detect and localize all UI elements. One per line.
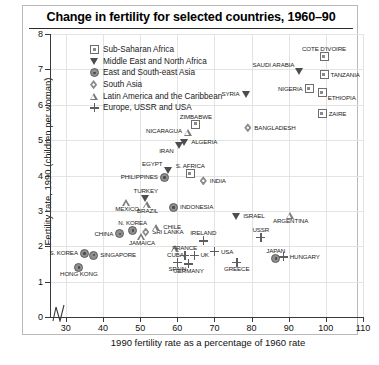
x-tick [326, 317, 327, 322]
marker-plus-icon [190, 251, 199, 260]
point-label: INDIA [210, 178, 226, 185]
chart-legend: Sub-Saharan AfricaMiddle East and North … [89, 44, 222, 114]
point-label: S. KOREA [49, 250, 77, 257]
x-tick [177, 317, 178, 322]
legend-item[interactable]: South Asia [89, 79, 222, 91]
marker-plus-icon [199, 236, 208, 245]
legend-label: East and South-east Asia [103, 68, 195, 77]
legend-item[interactable]: Sub-Saharan Africa [89, 44, 222, 56]
x-tick-label: 50 [128, 323, 152, 333]
marker-square-icon [318, 109, 327, 118]
point-label: EGYPT [142, 161, 162, 168]
legend-marker-plus-icon [89, 102, 100, 113]
marker-circle-icon [169, 203, 178, 212]
x-tick [140, 317, 141, 322]
marker-glyph [90, 45, 99, 54]
marker-glyph [90, 93, 98, 100]
point-label: HONG KONG [60, 271, 98, 278]
marker-circle-icon [160, 173, 169, 182]
title-divider [29, 28, 353, 29]
marker-circle-icon [89, 251, 98, 260]
point-label: GREECE [224, 266, 250, 273]
point-label: JAMAICA [129, 240, 155, 247]
x-tick [103, 317, 104, 322]
y-tick-label: 0 [23, 312, 43, 322]
marker-square-icon [320, 52, 329, 61]
marker-glyph [90, 68, 99, 77]
x-tick-label: 90 [277, 323, 301, 333]
gridline-horizontal [51, 176, 363, 177]
point-label: NICARAGUA [146, 128, 182, 135]
point-label: S. AFRICA [176, 163, 205, 170]
marker-plus-icon [210, 247, 219, 256]
x-tick-label: 80 [240, 323, 264, 333]
x-tick-label: 110 [351, 323, 375, 333]
point-label: ZIMBABWE [180, 114, 212, 121]
point-label: N. KOREA [118, 220, 147, 227]
point-label: NIGERIA [278, 86, 303, 93]
point-label: TURKEY [133, 188, 158, 195]
y-tick-label: 4 [23, 171, 43, 181]
point-label: TANZANIA [331, 71, 360, 78]
marker-square-icon [318, 88, 327, 97]
point-label: ZAIRE [329, 110, 347, 117]
marker-tri-down-icon [295, 68, 303, 75]
point-label: COTE D'IVOIRE [302, 46, 346, 53]
point-label: IRELAND [190, 230, 216, 237]
marker-tri-down-icon [242, 91, 250, 98]
point-label: SAUDI ARABIA [253, 62, 295, 69]
x-tick-label: 30 [54, 323, 78, 333]
marker-plus-icon [256, 233, 265, 242]
marker-square-icon [320, 70, 329, 79]
legend-marker-square-icon [89, 44, 100, 55]
legend-label: South Asia [103, 80, 142, 89]
legend-label: Latin America and the Caribbean [103, 92, 222, 101]
point-label: BRAZIL [137, 208, 158, 215]
marker-square-icon [186, 169, 195, 178]
gridline-horizontal [51, 34, 363, 35]
legend-label: Middle East and North Africa [103, 57, 207, 66]
gridline-horizontal [51, 211, 363, 212]
point-label: USA [221, 248, 233, 255]
x-tick-label: 70 [202, 323, 226, 333]
point-label: MEXICO [115, 206, 139, 213]
x-tick-label: 100 [314, 323, 338, 333]
marker-square-icon [191, 120, 200, 129]
gridline-horizontal [51, 246, 363, 247]
point-label: ETHIOPIA [328, 95, 356, 102]
legend-item[interactable]: Europe, USSR and USA [89, 102, 222, 114]
y-tick-label: 2 [23, 241, 43, 251]
x-tick [66, 317, 67, 322]
point-label: ARGENTINA [273, 218, 308, 225]
marker-circle-icon [115, 229, 124, 238]
marker-square-icon [305, 84, 314, 93]
marker-circle-icon [128, 226, 137, 235]
marker-tri-up-icon [152, 224, 160, 231]
point-label: UK [201, 252, 209, 259]
legend-label: Sub-Saharan Africa [103, 45, 174, 54]
x-tick [252, 317, 253, 322]
point-label: PHILIPPINES [121, 174, 158, 181]
legend-item[interactable]: Latin America and the Caribbean [89, 90, 222, 102]
marker-tri-up-icon [184, 129, 192, 136]
legend-marker-diamond-icon [89, 79, 100, 90]
y-tick-label: 3 [23, 206, 43, 216]
x-tick [214, 317, 215, 322]
point-label: CHINA [94, 231, 113, 238]
point-label: ISRAEL [243, 213, 264, 220]
y-tick [45, 317, 51, 318]
point-label: USSR [252, 227, 269, 234]
legend-item[interactable]: Middle East and North Africa [89, 56, 222, 68]
legend-item[interactable]: East and South-east Asia [89, 67, 222, 79]
x-axis-line [50, 317, 364, 318]
point-label: SINGAPORE [100, 252, 136, 259]
y-tick-label: 5 [23, 135, 43, 145]
point-label: ALGERIA [191, 139, 217, 146]
y-tick-label: 8 [23, 29, 43, 39]
chart-title: Change in fertility for selected countri… [23, 6, 359, 28]
gridline-vertical [363, 34, 364, 317]
marker-glyph [90, 58, 98, 65]
x-axis-label: 1990 fertility rate as a percentage of 1… [63, 337, 353, 348]
marker-glyph [90, 80, 97, 89]
x-tick [363, 317, 364, 322]
